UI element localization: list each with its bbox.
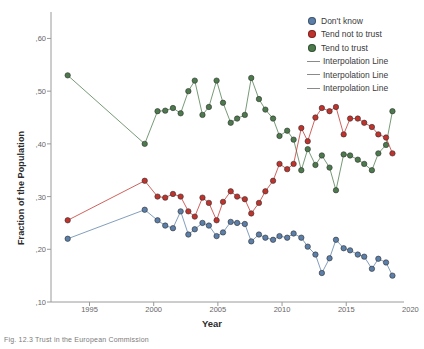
data-point bbox=[249, 75, 254, 80]
data-point bbox=[178, 194, 183, 199]
data-point bbox=[214, 218, 219, 223]
data-point bbox=[313, 162, 318, 167]
data-point bbox=[390, 273, 395, 278]
data-point bbox=[256, 200, 261, 205]
data-point bbox=[362, 161, 367, 166]
data-point bbox=[319, 105, 324, 110]
data-point bbox=[170, 226, 175, 231]
data-point bbox=[376, 132, 381, 137]
legend-item-label: Don't know bbox=[321, 17, 363, 26]
data-point bbox=[347, 248, 352, 253]
y-tick-label: ,20 bbox=[22, 245, 46, 254]
data-point bbox=[186, 88, 191, 93]
data-point bbox=[214, 233, 219, 238]
legend-item[interactable]: Tend not to trust bbox=[308, 28, 422, 42]
data-point bbox=[291, 137, 296, 142]
legend-item[interactable]: Interpolation Line bbox=[308, 82, 422, 96]
x-tick-label: 2020 bbox=[402, 305, 419, 314]
data-point bbox=[383, 260, 388, 265]
data-point bbox=[341, 152, 346, 157]
data-point bbox=[186, 209, 191, 214]
legend-marker-icon bbox=[308, 17, 316, 25]
data-point bbox=[362, 120, 367, 125]
data-point bbox=[341, 246, 346, 251]
data-point bbox=[362, 254, 367, 259]
data-point bbox=[192, 227, 197, 232]
data-point bbox=[192, 214, 197, 219]
data-point bbox=[263, 189, 268, 194]
data-point bbox=[65, 218, 70, 223]
data-point bbox=[277, 161, 282, 166]
data-point bbox=[390, 151, 395, 156]
data-point bbox=[313, 252, 318, 257]
legend-item[interactable]: Tend to trust bbox=[308, 41, 422, 55]
chart-legend: Don't knowTend not to trustTend to trust… bbox=[308, 14, 422, 95]
data-point bbox=[65, 236, 70, 241]
data-point bbox=[155, 108, 160, 113]
x-tick-label: 2005 bbox=[210, 305, 227, 314]
data-point bbox=[220, 230, 225, 235]
y-tick-label: ,50 bbox=[22, 87, 46, 96]
data-point bbox=[234, 116, 239, 121]
data-point bbox=[270, 237, 275, 242]
legend-item[interactable]: Interpolation Line bbox=[308, 55, 422, 69]
data-point bbox=[163, 108, 168, 113]
data-point bbox=[347, 153, 352, 158]
data-point bbox=[284, 235, 289, 240]
data-point bbox=[299, 168, 304, 173]
x-tick-label: 1995 bbox=[81, 305, 98, 314]
data-point bbox=[228, 189, 233, 194]
data-point bbox=[327, 256, 332, 261]
data-point bbox=[65, 73, 70, 78]
data-point bbox=[200, 195, 205, 200]
data-point bbox=[200, 112, 205, 117]
data-point bbox=[170, 191, 175, 196]
data-point bbox=[327, 108, 332, 113]
data-point bbox=[355, 116, 360, 121]
legend-item[interactable]: Don't know bbox=[308, 14, 422, 28]
data-point bbox=[155, 194, 160, 199]
data-point bbox=[228, 219, 233, 224]
data-point bbox=[186, 232, 191, 237]
y-tick-label: ,60 bbox=[22, 34, 46, 43]
data-point bbox=[228, 120, 233, 125]
legend-item[interactable]: Interpolation Line bbox=[308, 68, 422, 82]
data-point bbox=[277, 133, 282, 138]
data-point bbox=[242, 197, 247, 202]
x-tick-label: 2000 bbox=[145, 305, 162, 314]
legend-item-label: Interpolation Line bbox=[323, 71, 388, 80]
data-point bbox=[270, 178, 275, 183]
data-point bbox=[192, 78, 197, 83]
series-don-t-know bbox=[65, 207, 395, 278]
y-axis-title: Fraction of the Population bbox=[16, 131, 26, 245]
data-point bbox=[291, 161, 296, 166]
data-point bbox=[376, 151, 381, 156]
legend-item-label: Tend not to trust bbox=[321, 30, 382, 39]
data-point bbox=[333, 188, 338, 193]
data-point bbox=[390, 108, 395, 113]
data-point bbox=[291, 231, 296, 236]
data-point bbox=[284, 128, 289, 133]
data-point bbox=[214, 78, 219, 83]
data-point bbox=[234, 194, 239, 199]
data-point bbox=[299, 235, 304, 240]
x-tick-label: 2010 bbox=[274, 305, 291, 314]
data-point bbox=[369, 124, 374, 129]
data-point bbox=[200, 220, 205, 225]
data-point bbox=[376, 256, 381, 261]
y-tick-label: ,10 bbox=[22, 298, 46, 307]
data-point bbox=[277, 233, 282, 238]
data-point bbox=[256, 96, 261, 101]
legend-item-label: Interpolation Line bbox=[323, 84, 388, 93]
data-point bbox=[355, 157, 360, 162]
data-point bbox=[170, 105, 175, 110]
data-point bbox=[256, 232, 261, 237]
data-point bbox=[333, 237, 338, 242]
data-point bbox=[220, 199, 225, 204]
data-point bbox=[333, 104, 338, 109]
legend-line-icon bbox=[307, 88, 320, 89]
data-point bbox=[206, 200, 211, 205]
legend-marker-icon bbox=[308, 44, 316, 52]
data-point bbox=[206, 104, 211, 109]
x-tick-label: 2015 bbox=[338, 305, 355, 314]
